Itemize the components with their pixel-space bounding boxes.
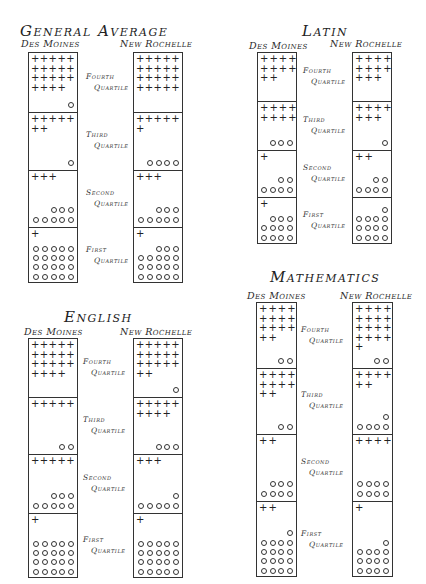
- circle-row: [154, 443, 180, 452]
- circle-icon: [138, 255, 144, 261]
- circle-icon: [374, 568, 380, 574]
- circle-icon: [356, 235, 362, 241]
- quartile-label-word: Quartile: [301, 335, 344, 346]
- circle-icon: [382, 207, 388, 213]
- plus-icon: +: [355, 73, 364, 83]
- quartile-label: FirstQuartile: [303, 209, 346, 231]
- plus-marks: ++: [259, 436, 297, 446]
- plus-icon: +: [57, 399, 66, 409]
- circle-icon: [270, 216, 276, 222]
- plus-icon: +: [279, 64, 288, 74]
- plus-icon: +: [383, 370, 392, 380]
- circle-row: [137, 254, 180, 263]
- circle-row: [355, 186, 389, 195]
- circle-row: [277, 357, 294, 366]
- circle-icon: [164, 217, 170, 223]
- circle-icon: [164, 444, 170, 450]
- circle-marks: [32, 244, 75, 282]
- quartile-label-ordinal: Fourth: [303, 65, 346, 76]
- circle-row: [32, 539, 75, 548]
- panel-title: English: [64, 308, 133, 326]
- plus-icon: +: [374, 113, 383, 123]
- circle-row: [260, 480, 294, 489]
- circle-icon: [164, 503, 170, 509]
- circle-marks: [137, 539, 180, 577]
- circle-icon: [278, 235, 284, 241]
- circle-icon: [261, 568, 267, 574]
- plus-icon: +: [383, 103, 392, 113]
- circle-icon: [33, 541, 39, 547]
- circle-icon: [287, 177, 293, 183]
- plus-icon: +: [66, 359, 75, 369]
- plus-icon: +: [31, 83, 40, 93]
- circle-icon: [382, 187, 388, 193]
- circle-icon: [287, 140, 293, 146]
- circle-icon: [270, 558, 276, 564]
- plus-icon: +: [355, 113, 364, 123]
- circle-icon: [147, 541, 153, 547]
- circle-icon: [261, 187, 267, 193]
- circle-icon: [366, 568, 372, 574]
- circle-icon: [374, 491, 380, 497]
- plus-icon: +: [49, 399, 58, 409]
- circle-icon: [287, 568, 293, 574]
- plus-icon: +: [374, 333, 383, 343]
- circle-icon: [278, 358, 284, 364]
- quartile-label-ordinal: Fourth: [83, 356, 126, 367]
- circle-icon: [68, 541, 74, 547]
- circle-icon: [365, 216, 371, 222]
- circle-row: [277, 423, 294, 432]
- circle-icon: [68, 559, 74, 565]
- circle-icon: [374, 558, 380, 564]
- circle-icon: [173, 541, 179, 547]
- plus-icon: +: [355, 342, 364, 352]
- circle-icon: [42, 255, 48, 261]
- circle-row: [356, 567, 390, 576]
- circle-icon: [383, 558, 389, 564]
- plus-icon: +: [136, 124, 145, 134]
- circle-icon: [366, 549, 372, 555]
- quartile-label-word: Quartile: [301, 400, 344, 411]
- circle-icon: [147, 274, 153, 280]
- plus-marks: +: [136, 229, 180, 239]
- plus-icon: +: [162, 359, 171, 369]
- plus-icon: +: [268, 503, 277, 513]
- circle-icon: [147, 264, 153, 270]
- circle-marks: [260, 529, 294, 576]
- circle-marks: [355, 176, 389, 195]
- plus-icon: +: [136, 229, 145, 239]
- circle-icon: [365, 225, 371, 231]
- quartile-cell: ++++++++++++++: [257, 303, 296, 368]
- quartile-cell: +: [258, 150, 296, 197]
- circle-icon: [59, 207, 65, 213]
- quartile-cell: ++: [257, 434, 296, 501]
- circle-icon: [164, 559, 170, 565]
- circle-icon: [33, 217, 39, 223]
- quartile-label-ordinal: Third: [86, 129, 129, 140]
- quartile-column-des-moines: ++++++++++++++++++++++++++++++: [28, 338, 78, 578]
- circle-icon: [270, 481, 276, 487]
- circle-icon: [164, 541, 170, 547]
- circle-icon: [374, 481, 380, 487]
- circle-marks: [137, 492, 180, 511]
- plus-icon: +: [162, 83, 171, 93]
- quartile-label-ordinal: Second: [86, 187, 129, 198]
- circle-icon: [156, 255, 162, 261]
- circle-icon: [278, 481, 284, 487]
- quartile-cell: +++++++++++++++++++: [29, 53, 77, 112]
- plus-icon: +: [40, 399, 49, 409]
- circle-icon: [42, 559, 48, 565]
- circle-icon: [173, 550, 179, 556]
- circle-marks: [373, 357, 390, 366]
- circle-icon: [173, 444, 179, 450]
- quartile-cell: ++++++: [134, 112, 182, 170]
- circle-icon: [138, 550, 144, 556]
- plus-icon: +: [374, 370, 383, 380]
- circle-icon: [287, 235, 293, 241]
- circle-marks: [355, 205, 389, 243]
- circle-icon: [156, 274, 162, 280]
- plus-icon: +: [364, 73, 373, 83]
- circle-row: [32, 254, 75, 263]
- circle-row: [137, 539, 180, 548]
- circle-icon: [261, 540, 267, 546]
